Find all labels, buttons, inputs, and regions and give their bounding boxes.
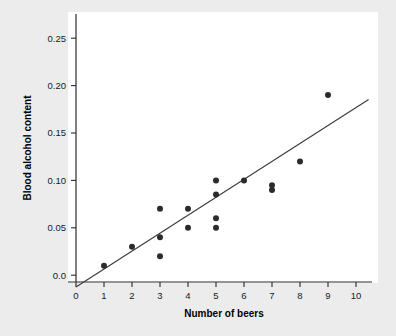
x-tick-label: 3 — [157, 290, 162, 301]
regression-line — [76, 100, 369, 288]
data-point — [101, 263, 107, 269]
x-axis-title: Number of beers — [184, 308, 264, 319]
data-points-layer — [101, 92, 331, 269]
data-point — [269, 187, 275, 193]
x-tick-label: 8 — [297, 290, 302, 301]
x-tick-label: 7 — [269, 290, 274, 301]
x-tick-label: 2 — [129, 290, 134, 301]
y-tick-label: 0.10 — [48, 175, 67, 186]
data-point — [241, 177, 247, 183]
x-tick-label: 9 — [325, 290, 330, 301]
data-point — [157, 206, 163, 212]
y-tick-label: 0.15 — [48, 127, 67, 138]
data-point — [213, 225, 219, 231]
x-tick-label: 4 — [185, 290, 190, 301]
data-point — [129, 244, 135, 250]
data-point — [213, 192, 219, 198]
chart-figure: 0.00.050.100.150.200.25 012345678910 Num… — [0, 0, 396, 336]
data-point — [185, 225, 191, 231]
data-point — [185, 206, 191, 212]
x-tick-label: 1 — [101, 290, 106, 301]
y-axis-ticks: 0.00.050.100.150.200.25 — [48, 33, 77, 281]
y-tick-label: 0.0 — [53, 270, 66, 281]
data-point — [157, 234, 163, 240]
data-point — [157, 253, 163, 259]
x-tick-label: 6 — [241, 290, 246, 301]
x-tick-label: 0 — [73, 290, 78, 301]
data-point — [213, 177, 219, 183]
y-tick-label: 0.25 — [48, 33, 67, 44]
y-tick-label: 0.05 — [48, 222, 67, 233]
data-point — [213, 215, 219, 221]
y-axis-title: Blood alcohol content — [22, 95, 33, 201]
y-tick-label: 0.20 — [48, 80, 67, 91]
data-point — [297, 158, 303, 164]
scatter-plot: 0.00.050.100.150.200.25 012345678910 Num… — [0, 0, 396, 336]
data-point — [325, 92, 331, 98]
x-axis-ticks: 012345678910 — [73, 282, 361, 301]
x-tick-label: 10 — [351, 290, 362, 301]
x-tick-label: 5 — [213, 290, 218, 301]
